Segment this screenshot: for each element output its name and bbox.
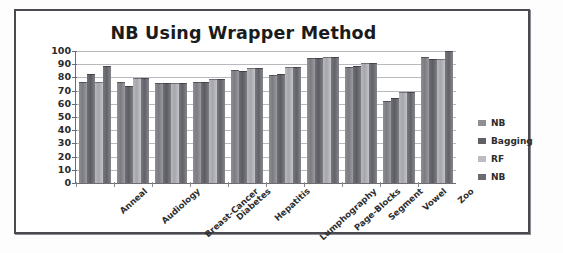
bar-audiology-nb-0 — [117, 82, 124, 183]
x-label-breast-cancer: Breast-Cancer — [202, 186, 260, 239]
scanned-figure-page: NB Using Wrapper Method 1009080706050403… — [0, 0, 563, 253]
legend-swatch-nb-2 — [478, 174, 486, 180]
legend-item-1: Bagging — [478, 133, 544, 148]
y-tick-label-50: 50 — [41, 112, 71, 122]
bar-lumphography-nb-3 — [293, 67, 300, 183]
bar-page-blocks-rf-2 — [323, 57, 330, 183]
bar-group-lumphography — [266, 51, 304, 183]
bar-page-blocks-bagging-1 — [315, 58, 322, 183]
bar-anneal-bagging-1 — [87, 74, 94, 183]
bar-vowel-nb-3 — [407, 92, 414, 183]
x-label-anneal: Anneal — [117, 186, 149, 216]
chart-title: NB Using Wrapper Method — [16, 23, 471, 43]
bar-breast-cancer-bagging-1 — [163, 83, 170, 183]
bar-vowel-nb-0 — [383, 101, 390, 183]
x-label-zoo: Zoo — [456, 186, 476, 206]
bar-audiology-rf-2 — [133, 78, 140, 183]
bar-segment-bagging-1 — [353, 66, 360, 183]
bar-group-audiology — [114, 51, 152, 183]
legend-label-3: NB — [491, 172, 505, 182]
y-tick-label-40: 40 — [41, 125, 71, 135]
legend-label-1: Bagging — [491, 136, 533, 146]
x-label-vowel: Vowel — [421, 186, 449, 213]
bar-zoo-nb-3 — [445, 51, 452, 183]
bar-zoo-rf-2 — [437, 59, 444, 183]
bar-group-diabetes — [190, 51, 228, 183]
legend-label-0: NB — [491, 118, 505, 128]
y-tick-label-90: 90 — [41, 59, 71, 69]
bar-audiology-nb-3 — [141, 78, 148, 183]
y-tick-label-10: 10 — [41, 165, 71, 175]
bar-segment-nb-3 — [369, 63, 376, 183]
bar-segment-nb-0 — [345, 67, 352, 183]
y-tick-label-20: 20 — [41, 152, 71, 162]
bar-breast-cancer-rf-2 — [171, 83, 178, 183]
bar-hepatitis-bagging-1 — [239, 71, 246, 183]
legend-swatch-nb-1 — [478, 120, 486, 126]
bar-zoo-nb-0 — [421, 57, 428, 183]
bar-group-vowel — [380, 51, 418, 183]
bar-diabetes-bagging-1 — [201, 82, 208, 183]
bar-anneal-nb-3 — [103, 66, 110, 183]
bar-group-hepatitis — [228, 51, 266, 183]
bar-hepatitis-rf-2 — [247, 68, 254, 183]
chart-figure-frame: NB Using Wrapper Method 1009080706050403… — [14, 9, 530, 234]
bar-breast-cancer-nb-0 — [155, 83, 162, 183]
bar-lumphography-bagging-1 — [277, 74, 284, 183]
x-axis-category-labels: AnnealAudiologyBreast-CancerDiabetesHepa… — [75, 184, 456, 232]
bar-breast-cancer-nb-3 — [179, 83, 186, 183]
legend-swatch-rf — [478, 156, 486, 162]
bar-group-anneal — [76, 51, 114, 183]
bar-audiology-bagging-1 — [125, 86, 132, 183]
legend-item-3: NB — [478, 169, 544, 184]
bar-page-blocks-nb-3 — [331, 57, 338, 183]
bar-group-page-blocks — [304, 51, 342, 183]
bar-groups — [76, 51, 456, 183]
legend-swatch-bagging — [478, 138, 486, 144]
bar-group-breast-cancer — [152, 51, 190, 183]
bar-lumphography-nb-0 — [269, 75, 276, 183]
y-tick-label-0: 0 — [41, 178, 71, 188]
legend-label-2: RF — [491, 154, 504, 164]
bar-group-segment — [342, 51, 380, 183]
y-tick-label-70: 70 — [41, 86, 71, 96]
bar-anneal-nb-0 — [79, 82, 86, 183]
plot-wrapper: 1009080706050403020100 AnnealAudiologyBr… — [41, 51, 461, 191]
y-tick-label-30: 30 — [41, 139, 71, 149]
y-tick-label-80: 80 — [41, 73, 71, 83]
bar-zoo-bagging-1 — [429, 59, 436, 183]
bar-group-zoo — [418, 51, 456, 183]
plot-area — [75, 51, 456, 183]
bar-vowel-bagging-1 — [391, 98, 398, 183]
bar-diabetes-rf-2 — [209, 79, 216, 183]
legend-item-2: RF — [478, 151, 544, 166]
bar-diabetes-nb-0 — [193, 82, 200, 183]
y-tick-label-100: 100 — [41, 46, 71, 56]
bar-hepatitis-nb-3 — [255, 68, 262, 183]
bar-segment-rf-2 — [361, 63, 368, 183]
bar-page-blocks-nb-0 — [307, 58, 314, 183]
bar-hepatitis-nb-0 — [231, 70, 238, 183]
x-label-audiology: Audiology — [159, 186, 202, 226]
chart-legend: NBBaggingRFNB — [478, 115, 544, 187]
bar-vowel-rf-2 — [399, 92, 406, 183]
x-label-hepatitis: Hepatitis — [272, 186, 312, 223]
y-tick-label-60: 60 — [41, 99, 71, 109]
y-axis-tick-labels: 1009080706050403020100 — [41, 51, 71, 183]
legend-item-0: NB — [478, 115, 544, 130]
bar-anneal-rf-2 — [95, 82, 102, 183]
bar-lumphography-rf-2 — [285, 67, 292, 183]
bar-diabetes-nb-3 — [217, 79, 224, 183]
